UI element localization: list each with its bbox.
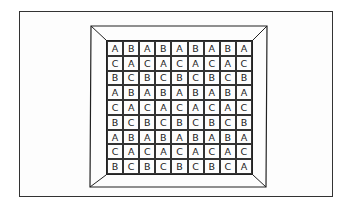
- grid-cell: A: [155, 144, 171, 159]
- grid-cell: B: [107, 115, 123, 130]
- grid-cell: B: [155, 130, 171, 145]
- grid-cell: C: [220, 71, 236, 86]
- grid-cell: A: [171, 41, 187, 56]
- grid-cell: B: [220, 41, 236, 56]
- grid-cell: C: [188, 159, 204, 174]
- grid-cell: C: [123, 159, 139, 174]
- grid-cell: A: [155, 56, 171, 71]
- grid-cell: A: [188, 56, 204, 71]
- grid-cell: C: [155, 159, 171, 174]
- grid-cell: B: [139, 115, 155, 130]
- grid-cell: C: [155, 115, 171, 130]
- grid-cell: B: [107, 159, 123, 174]
- grid-cell: C: [139, 144, 155, 159]
- grid-cell: B: [220, 85, 236, 100]
- grid-cell: A: [236, 85, 252, 100]
- grid-cell: B: [123, 130, 139, 145]
- grid-cell: C: [220, 115, 236, 130]
- grid-cell: C: [220, 159, 236, 174]
- grid-cell: A: [204, 41, 220, 56]
- grid-cell: B: [188, 41, 204, 56]
- grid-cell: A: [236, 159, 252, 174]
- grid-cell: A: [139, 130, 155, 145]
- grid-cell: C: [188, 115, 204, 130]
- grid-cell: A: [155, 100, 171, 115]
- grid-cell: C: [139, 56, 155, 71]
- grid-cell: A: [220, 144, 236, 159]
- grid-cell: C: [123, 115, 139, 130]
- grid-cell: C: [204, 100, 220, 115]
- grid-cell: A: [188, 144, 204, 159]
- grid-cell: C: [171, 144, 187, 159]
- grid-cell: C: [123, 71, 139, 86]
- grid-cell: C: [236, 144, 252, 159]
- grid-cell: B: [188, 130, 204, 145]
- grid-cell: A: [236, 130, 252, 145]
- grid-cell: B: [171, 159, 187, 174]
- grid-cell: C: [236, 100, 252, 115]
- grid-cell: B: [188, 85, 204, 100]
- grid-cell: A: [107, 85, 123, 100]
- grid-cell: C: [155, 71, 171, 86]
- grid-cell: C: [107, 100, 123, 115]
- grid-cell: A: [171, 130, 187, 145]
- grid-cell: B: [107, 71, 123, 86]
- grid-cell: B: [236, 115, 252, 130]
- grid-cell: B: [123, 85, 139, 100]
- letter-grid: ABABABABACACACACACBCBCBCBCBABABABABACACA…: [106, 40, 253, 175]
- grid-cell: A: [123, 56, 139, 71]
- grid-cell: C: [139, 100, 155, 115]
- grid-cell: A: [204, 130, 220, 145]
- grid-cell: A: [139, 41, 155, 56]
- grid-cell: B: [204, 71, 220, 86]
- grid-cell: B: [171, 71, 187, 86]
- grid-cell: A: [204, 85, 220, 100]
- grid-cell: A: [123, 144, 139, 159]
- grid-cell: B: [123, 41, 139, 56]
- grid-cell: B: [204, 115, 220, 130]
- grid-cell: C: [236, 56, 252, 71]
- grid-cell: B: [155, 85, 171, 100]
- grid-cell: A: [220, 100, 236, 115]
- grid-cell: B: [139, 71, 155, 86]
- grid-cell: A: [139, 85, 155, 100]
- grid-cell: C: [204, 144, 220, 159]
- grid-cell: C: [107, 144, 123, 159]
- grid-cell: C: [107, 56, 123, 71]
- grid-cell: C: [188, 71, 204, 86]
- grid-cell: B: [139, 159, 155, 174]
- grid-cell: C: [171, 56, 187, 71]
- grid-cell: A: [171, 85, 187, 100]
- grid-cell: A: [236, 41, 252, 56]
- grid-cell: C: [204, 56, 220, 71]
- grid-cell: B: [204, 159, 220, 174]
- grid-cell: A: [188, 100, 204, 115]
- grid-cell: A: [107, 41, 123, 56]
- grid-cell: B: [171, 115, 187, 130]
- grid-cell: B: [155, 41, 171, 56]
- grid-cell: B: [236, 71, 252, 86]
- grid-cell: B: [220, 130, 236, 145]
- grid-cell: A: [220, 56, 236, 71]
- grid-cell: A: [107, 130, 123, 145]
- grid-cell: C: [171, 100, 187, 115]
- grid-cell: A: [123, 100, 139, 115]
